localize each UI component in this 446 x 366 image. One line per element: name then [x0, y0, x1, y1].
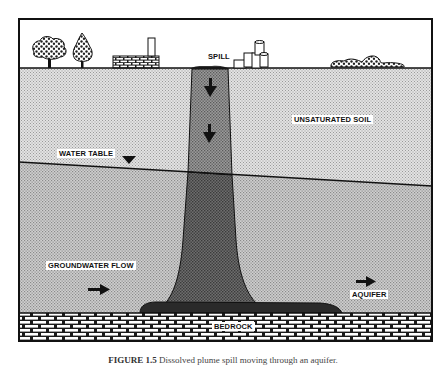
figure-number: FIGURE 1.5	[108, 355, 157, 365]
unsaturated-soil-label: UNSATURATED SOIL	[292, 115, 373, 124]
groundwater-flow-label: GROUNDWATER FLOW	[46, 261, 136, 270]
aquifer-label: AQUIFER	[350, 290, 388, 299]
figure-caption: FIGURE 1.5 Dissolved plume spill moving …	[0, 355, 446, 366]
water-table-label: WATER TABLE	[57, 149, 115, 158]
spill-label: SPILL	[206, 52, 232, 61]
bedrock-label: BEDROCK	[212, 322, 255, 331]
figure-caption-text: Dissolved plume spill moving through an …	[159, 355, 338, 365]
contaminant-pool	[140, 302, 342, 313]
